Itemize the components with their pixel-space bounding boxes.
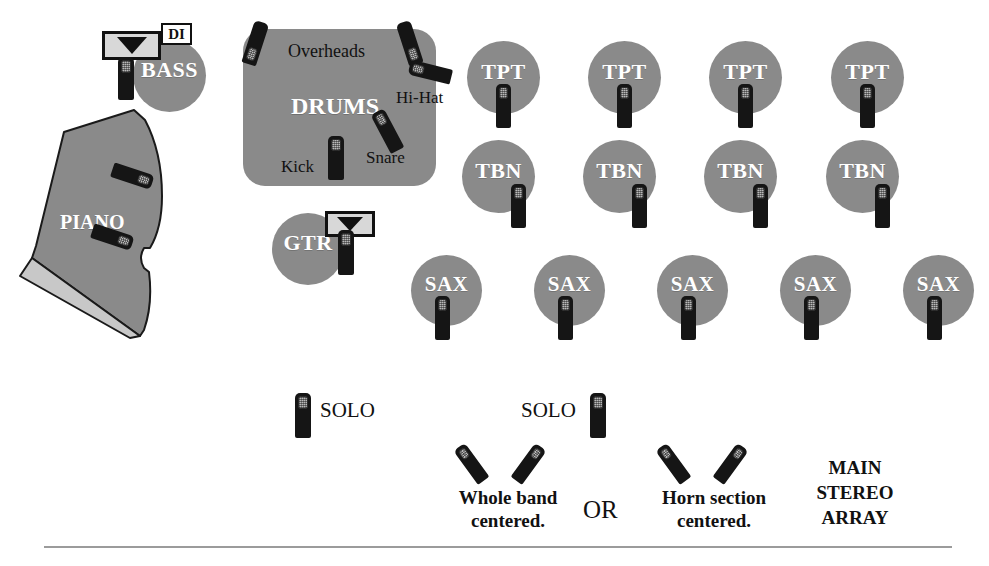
mic-grille	[298, 396, 308, 409]
stereo-option-b-line2: centered.	[640, 510, 788, 532]
trombone-microphone-icon-4[interactable]	[875, 184, 890, 228]
bass-di-box[interactable]: DI	[161, 23, 192, 45]
sax-label-4: SAX	[794, 272, 838, 297]
sax-label-2: SAX	[548, 272, 592, 297]
trumpet-label-4: TPT	[845, 59, 889, 85]
mic-body	[713, 443, 749, 485]
bass-amp-icon	[102, 31, 161, 60]
mic-grille	[741, 87, 750, 99]
trumpet-label-2: TPT	[602, 59, 646, 85]
mic-grille	[341, 233, 351, 246]
mic-grille	[930, 299, 939, 311]
stereo-pair-microphone-icon-left[interactable]	[453, 443, 489, 485]
sax-microphone-icon-1[interactable]	[435, 296, 450, 340]
mic-grille	[499, 87, 508, 99]
sax-label-5: SAX	[917, 272, 961, 297]
trombone-microphone-icon-3[interactable]	[753, 184, 768, 228]
trombone-microphone-icon-2[interactable]	[632, 184, 647, 228]
mic-grille	[561, 299, 570, 311]
sax-microphone-icon-2[interactable]	[558, 296, 573, 340]
stereo-pair-whole-band[interactable]	[471, 442, 547, 490]
stereo-option-a-line2: centered.	[438, 510, 578, 532]
solo-label-left: SOLO	[320, 398, 375, 423]
stereo-option-conjunction: OR	[583, 496, 618, 524]
sax-label-1: SAX	[425, 272, 469, 297]
bass-label: BASS	[141, 57, 198, 83]
mic-grille	[438, 299, 447, 311]
drums-overheads-label: Overheads	[288, 41, 365, 62]
sax-microphone-icon-5[interactable]	[927, 296, 942, 340]
drums-kick-microphone-icon[interactable]	[328, 136, 344, 180]
sax-microphone-icon-4[interactable]	[804, 296, 819, 340]
trumpet-label-1: TPT	[481, 59, 525, 85]
mic-grille	[514, 187, 523, 199]
drums-kick-label: Kick	[281, 157, 314, 177]
trombone-label-4: TBN	[839, 158, 886, 184]
sax-label-3: SAX	[671, 272, 715, 297]
piano-position[interactable]: PIANO	[12, 108, 187, 340]
trombone-microphone-icon-1[interactable]	[511, 184, 526, 228]
solo-microphone-icon-right[interactable]	[590, 393, 606, 438]
stereo-option-b-line1: Horn section	[640, 487, 788, 509]
mic-body	[511, 443, 547, 485]
mic-grille	[756, 187, 765, 199]
mic-grille	[121, 60, 131, 73]
sax-microphone-icon-3[interactable]	[681, 296, 696, 340]
drums-hihat-label: Hi-Hat	[396, 88, 443, 108]
di-box-label: DI	[168, 27, 185, 42]
trombone-label-3: TBN	[717, 158, 764, 184]
mic-grille	[620, 87, 629, 99]
mic-grille	[331, 139, 341, 151]
stage-plot-diagram: BASS DI PIANO DRUMS	[0, 0, 989, 566]
trombone-label-1: TBN	[475, 158, 522, 184]
mic-grille	[593, 396, 603, 409]
stereo-pair-horn-section[interactable]	[673, 442, 749, 490]
stereo-pair-b-microphone-icon-right[interactable]	[713, 443, 749, 485]
trombone-label-2: TBN	[596, 158, 643, 184]
bass-amp-speaker-cone	[117, 37, 147, 54]
guitar-microphone-icon[interactable]	[338, 230, 354, 275]
trumpet-microphone-icon-2[interactable]	[617, 84, 632, 128]
solo-label-right: SOLO	[521, 398, 576, 423]
stereo-pair-b-microphone-icon-left[interactable]	[655, 443, 691, 485]
bottom-divider	[44, 546, 952, 548]
drums-label: DRUMS	[291, 93, 379, 120]
stereo-option-a-line1: Whole band	[438, 487, 578, 509]
bass-microphone-icon[interactable]	[118, 57, 134, 100]
trumpet-label-3: TPT	[723, 59, 767, 85]
mic-grille	[863, 87, 872, 99]
mic-grille	[878, 187, 887, 199]
drums-snare-label: Snare	[366, 148, 405, 168]
stereo-array-heading-line1: MAIN	[790, 457, 920, 479]
stereo-array-heading-line2: STEREO	[790, 482, 920, 504]
stereo-pair-microphone-icon-right[interactable]	[511, 443, 547, 485]
solo-microphone-icon-left[interactable]	[295, 393, 311, 438]
mic-grille	[635, 187, 644, 199]
mic-grille	[684, 299, 693, 311]
trumpet-microphone-icon-3[interactable]	[738, 84, 753, 128]
mic-grille	[807, 299, 816, 311]
stereo-array-heading-line3: ARRAY	[790, 507, 920, 529]
trumpet-microphone-icon-4[interactable]	[860, 84, 875, 128]
trumpet-microphone-icon-1[interactable]	[496, 84, 511, 128]
